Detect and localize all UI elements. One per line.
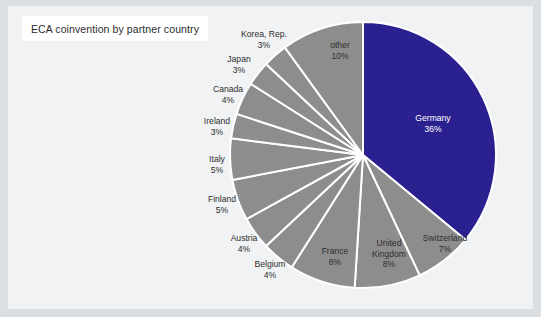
pie-slice-label: other10%: [330, 40, 350, 61]
pie-slice-label: Korea, Rep.3%: [241, 29, 287, 50]
pie-chart: Germany36%Switzerland7%UnitedKingdom8%Fr…: [8, 6, 533, 309]
pie-slice-label: Belgium4%: [254, 259, 285, 280]
page-title: ECA coinvention by partner country: [31, 23, 199, 35]
pie-slice-label: Japan3%: [227, 54, 251, 75]
pie-slice-label: Finland5%: [208, 194, 236, 215]
chart-screenshot: Germany36%Switzerland7%UnitedKingdom8%Fr…: [0, 0, 541, 317]
pie-slice-label: Ireland3%: [204, 116, 230, 137]
pie-slice-label: Austria4%: [231, 233, 258, 254]
chart-panel: Germany36%Switzerland7%UnitedKingdom8%Fr…: [8, 6, 533, 309]
pie-slice-label: Canada4%: [213, 84, 243, 105]
chart-title-box: ECA coinvention by partner country: [22, 16, 208, 41]
pie-slice-label: Italy5%: [209, 154, 225, 175]
